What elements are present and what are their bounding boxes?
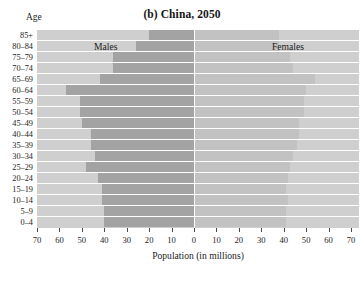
female-bar xyxy=(194,151,293,161)
x-axis-tick-label: 10 xyxy=(212,235,221,245)
series-label-males: Males xyxy=(94,41,117,52)
x-axis-tick xyxy=(351,228,352,232)
pyramid-row xyxy=(37,162,359,173)
pyramid-row xyxy=(37,107,359,118)
female-bar xyxy=(194,184,286,194)
chart-title: (b) China, 2050 xyxy=(0,8,364,20)
age-label: 15–19 xyxy=(0,184,35,195)
x-axis-tick xyxy=(59,228,60,232)
age-label: 50–54 xyxy=(0,107,35,118)
age-label: 85+ xyxy=(0,30,35,41)
female-bar xyxy=(194,195,288,205)
x-axis-tick xyxy=(104,228,105,232)
female-bar xyxy=(194,173,288,183)
age-label: 65–69 xyxy=(0,74,35,85)
male-bar xyxy=(149,30,194,40)
x-axis-tick-label: 60 xyxy=(55,235,64,245)
male-bar xyxy=(82,118,194,128)
male-bar xyxy=(102,195,194,205)
age-label: 55–59 xyxy=(0,96,35,107)
pyramid-row xyxy=(37,52,359,63)
female-bar xyxy=(194,74,315,84)
pyramid-row xyxy=(37,173,359,184)
age-label: 70–74 xyxy=(0,63,35,74)
x-axis-tick-label: 40 xyxy=(279,235,288,245)
x-axis-tick-label: 70 xyxy=(347,235,356,245)
age-label: 30–34 xyxy=(0,151,35,162)
x-axis-tick xyxy=(329,228,330,232)
female-bar xyxy=(194,118,299,128)
pyramid-row xyxy=(37,195,359,206)
female-bar xyxy=(194,30,279,40)
female-bar xyxy=(194,52,290,62)
male-bar xyxy=(100,74,194,84)
x-axis-tick-label: 20 xyxy=(235,235,244,245)
x-axis-title: Population (in millions) xyxy=(37,250,359,261)
age-label: 0–4 xyxy=(0,217,35,228)
female-bar xyxy=(194,41,279,51)
age-label: 45–49 xyxy=(0,118,35,129)
x-axis-tick xyxy=(216,228,217,232)
age-axis-header: Age xyxy=(26,12,42,22)
x-axis-tick xyxy=(194,228,195,232)
pyramid-row xyxy=(37,118,359,129)
male-bar xyxy=(104,217,194,227)
x-axis-tick-labels: 70605040302010010203040506070 xyxy=(0,235,364,247)
age-label: 25–29 xyxy=(0,162,35,173)
x-axis-tick xyxy=(37,228,38,232)
x-axis-tick-label: 40 xyxy=(100,235,109,245)
pyramid-row xyxy=(37,74,359,85)
age-label: 20–24 xyxy=(0,173,35,184)
female-bar xyxy=(194,96,304,106)
x-axis-tick-label: 50 xyxy=(302,235,311,245)
age-label: 10–14 xyxy=(0,195,35,206)
pyramid-row xyxy=(37,140,359,151)
female-bar xyxy=(194,107,304,117)
pyramid-row xyxy=(37,206,359,217)
male-bar xyxy=(113,52,194,62)
x-axis-tick-label: 20 xyxy=(145,235,154,245)
male-bar xyxy=(66,85,194,95)
center-axis-line xyxy=(194,30,195,228)
x-axis xyxy=(37,228,359,234)
plot-area xyxy=(37,30,359,228)
pyramid-row xyxy=(37,184,359,195)
x-axis-tick xyxy=(239,228,240,232)
male-bar xyxy=(86,162,194,172)
male-bar xyxy=(136,41,194,51)
age-label: 5–9 xyxy=(0,206,35,217)
x-axis-tick-label: 50 xyxy=(78,235,87,245)
x-axis-tick xyxy=(82,228,83,232)
x-axis-tick xyxy=(261,228,262,232)
male-bar xyxy=(113,63,194,73)
male-bar xyxy=(104,206,194,216)
age-label: 35–39 xyxy=(0,140,35,151)
female-bar xyxy=(194,140,297,150)
male-bar xyxy=(80,96,194,106)
age-label: 75–79 xyxy=(0,52,35,63)
male-bar xyxy=(95,151,194,161)
male-bar xyxy=(102,184,194,194)
age-label: 60–64 xyxy=(0,85,35,96)
x-axis-tick-label: 70 xyxy=(33,235,42,245)
series-label-females: Females xyxy=(272,41,304,52)
x-axis-tick xyxy=(306,228,307,232)
pyramid-row xyxy=(37,41,359,52)
pyramid-row xyxy=(37,151,359,162)
x-axis-tick-label: 30 xyxy=(257,235,266,245)
age-label: 40–44 xyxy=(0,129,35,140)
x-axis-tick xyxy=(149,228,150,232)
population-pyramid-figure: (b) China, 2050 Age 85+80–8475–7970–7465… xyxy=(0,0,364,282)
age-axis-tick-labels: 85+80–8475–7970–7465–6960–6455–5950–5445… xyxy=(0,30,35,228)
pyramid-row xyxy=(37,85,359,96)
female-bar xyxy=(194,162,290,172)
age-label: 80–84 xyxy=(0,41,35,52)
x-axis-tick xyxy=(127,228,128,232)
x-axis-tick-label: 10 xyxy=(167,235,176,245)
x-axis-tick-label: 30 xyxy=(122,235,131,245)
male-bar xyxy=(80,107,194,117)
pyramid-row xyxy=(37,30,359,41)
female-bar xyxy=(194,85,306,95)
pyramid-row xyxy=(37,96,359,107)
x-axis-tick-label: 0 xyxy=(192,235,196,245)
